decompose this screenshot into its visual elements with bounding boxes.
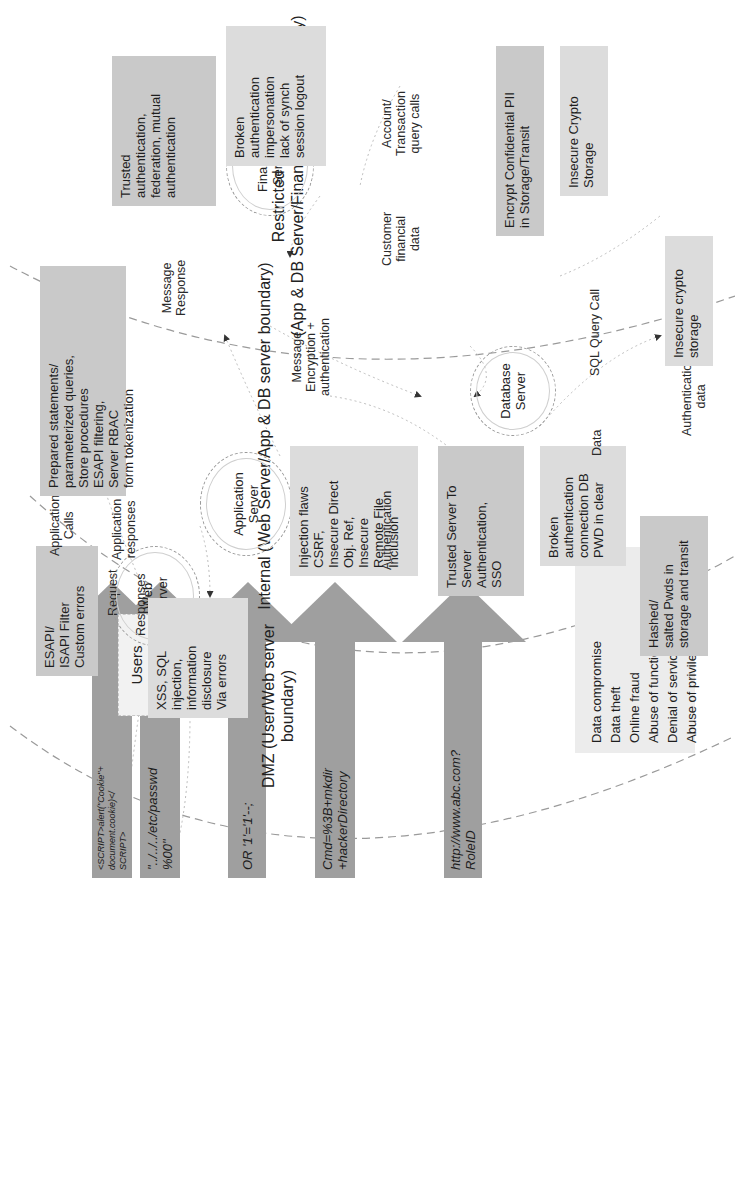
- users-label: Users: [128, 645, 145, 684]
- encrypt-pii-control: Encrypt Confidential PII in Storage/Tran…: [496, 46, 544, 236]
- trusted-server-auth-control: Trusted Server To Server Authentication,…: [438, 446, 524, 596]
- insecure-crypto-db-vulnerability: Insecure crypto storage: [665, 236, 713, 366]
- application-server-label: Application Server: [231, 472, 261, 536]
- database-server-node: Database Server: [470, 346, 556, 436]
- flow-label-data: Data: [590, 430, 604, 456]
- threat-model-diagram: <SCRIPT>alert("Cookie"+ document.cookie)…: [0, 0, 735, 1196]
- application-server-node: Application Server: [200, 452, 292, 556]
- prepared-statements-control: Prepared statements/ parameterized queri…: [40, 266, 126, 496]
- flow-label-account-transaction-calls: Account/ Transaction query calls: [380, 91, 422, 156]
- insecure-crypto-fin-vulnerability: Insecure Crypto Storage: [560, 46, 608, 196]
- web-vulnerabilities: XSS, SQL injection, information disclosu…: [148, 598, 248, 718]
- web-filter-control: ESAPI/ ISAPI Filter Custom errors: [36, 546, 98, 676]
- flow-label-app-responses: Application responses: [110, 499, 138, 560]
- app-vulnerabilities: Injection flaws CSRF, Insecure Direct Ob…: [290, 446, 418, 576]
- db-broken-auth-vulnerability: Broken authentication connection DB PWD …: [540, 446, 626, 566]
- flow-label-sql-query-call: SQL Query Call: [588, 289, 602, 376]
- flow-label-customer-financial-data: Customer financial data: [380, 212, 422, 266]
- trusted-federation-control: Trusted authentication, federation, mutu…: [112, 56, 216, 206]
- attack-arrow-role-tampering: http://www.abc.com? RoleID: [454, 578, 584, 878]
- database-server-label: Database Server: [498, 363, 528, 419]
- hashed-pwds-control: Hashed/ salted Pwds in storage and trans…: [640, 516, 708, 656]
- flow-label-app-calls: Application Calls: [48, 495, 76, 556]
- financial-broken-auth-vulnerability: Broken authentication impersonation lack…: [226, 26, 326, 166]
- flow-label-authentication: Authentication: [380, 491, 394, 570]
- flow-label-message-response: Message Response: [160, 260, 188, 316]
- flow-label-authentication-data: Authentication data: [680, 357, 708, 436]
